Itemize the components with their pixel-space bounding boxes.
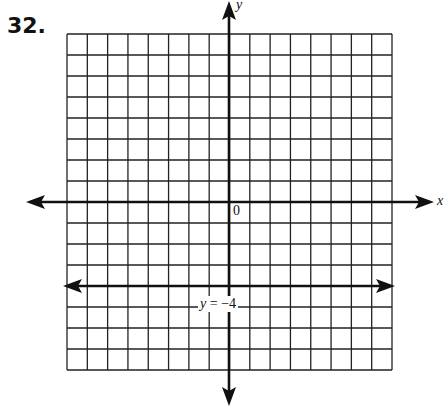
origin-label: 0	[233, 203, 240, 219]
line-label-val: −4	[221, 296, 236, 311]
coordinate-grid	[0, 0, 445, 407]
y-axis-label: y	[236, 0, 242, 13]
line-equation-label: y = −4	[198, 296, 238, 312]
line-label-eq: =	[206, 296, 221, 311]
x-axis-label: x	[437, 193, 443, 209]
